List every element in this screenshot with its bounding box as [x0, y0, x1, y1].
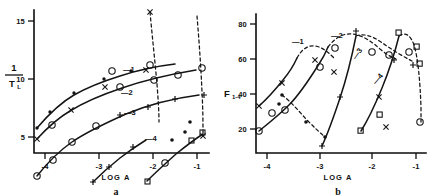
panel-a: 15 10 5 -4 -3 -2 -1 LOG A 1 T L	[0, 0, 216, 195]
panel-a-curve-label-4: —4	[145, 134, 158, 143]
marker-plus	[337, 94, 343, 100]
panel-b-curve-early-fall	[282, 95, 325, 137]
panel-b-markers-series-1	[256, 57, 336, 108]
panel-b-xtick-m3: -3	[316, 162, 323, 171]
panel-a-xtick-m2: -2	[149, 162, 156, 171]
panel-b-curve-4-fall	[399, 34, 421, 122]
panel-b-curve-label-3: —3	[350, 46, 364, 61]
panel-a-curve-3	[37, 95, 199, 176]
panel-b-markers-series-3	[319, 28, 416, 149]
panel-a-plot: 15 10 5 -4 -3 -2 -1 LOG A 1 T L	[0, 0, 216, 195]
panel-b-xaxis-title: LOG A	[324, 173, 353, 182]
panel-a-axes	[34, 10, 209, 153]
panel-b-yaxis-main: F	[224, 88, 230, 99]
marker-x	[34, 136, 39, 141]
panel-b-curve-1-rise	[259, 58, 297, 106]
panel-b-markers-series-2	[256, 45, 392, 134]
panel-a-y-ticks	[28, 21, 34, 137]
panel-a-curve-label-3: —3	[124, 108, 136, 117]
panel-a-xaxis-title: LOG A	[102, 173, 131, 182]
panel-b-y-ticks	[250, 24, 256, 129]
figure-root: 15 10 5 -4 -3 -2 -1 LOG A 1 T L	[0, 0, 432, 195]
panel-b-xtick-m4: -4	[263, 162, 271, 171]
panel-b-ytick-80: 80	[238, 20, 247, 29]
marker-x	[256, 103, 261, 108]
panel-a-curve-1	[37, 64, 175, 128]
marker-plus	[410, 62, 416, 68]
panel-a-xtick-m3: -3	[95, 162, 102, 171]
panel-b-plot: 80 60 40 20 -4 -3 -2 -1 LOG A F 1-4	[216, 0, 432, 195]
panel-b-xtick-m1: -1	[412, 162, 419, 171]
panel-b: 80 60 40 20 -4 -3 -2 -1 LOG A F 1-4	[216, 0, 432, 195]
panel-a-ytick-10: 10	[16, 75, 25, 84]
panel-a-yaxis-denominator: T	[9, 78, 15, 89]
panel-a-ytick-15: 15	[16, 17, 25, 26]
panel-a-xtick-m1: -1	[193, 162, 200, 171]
panel-b-letter: b	[335, 186, 341, 195]
panel-b-curve-2-rise	[259, 47, 328, 131]
marker-x	[331, 69, 336, 74]
marker-plus	[353, 28, 359, 34]
panel-a-yaxis-numerator: 1	[11, 62, 17, 73]
panel-b-curve-3-fall	[356, 35, 412, 61]
panel-a-letter: a	[114, 186, 119, 195]
panel-b-ytick-20: 20	[238, 125, 247, 134]
panel-b-ytick-60: 60	[238, 55, 247, 64]
panel-b-x-ticks	[267, 153, 416, 159]
panel-a-curve-label-1: —1	[123, 65, 135, 74]
panel-b-curve-label-1: —1	[292, 37, 304, 46]
marker-plus	[172, 96, 178, 102]
marker-x	[312, 57, 317, 62]
panel-b-yaxis-sub: 1-4	[232, 94, 241, 100]
panel-a-dashed-2	[197, 16, 203, 136]
panel-a-ytick-5: 5	[21, 133, 25, 142]
panel-b-xtick-m2: -2	[368, 162, 375, 171]
panel-a-yaxis-denominator-sub: L	[17, 84, 21, 90]
marker-x	[102, 84, 107, 89]
marker-plus	[319, 143, 325, 149]
marker-x	[383, 124, 388, 129]
panel-b-curve-label-2: —2	[331, 31, 343, 40]
